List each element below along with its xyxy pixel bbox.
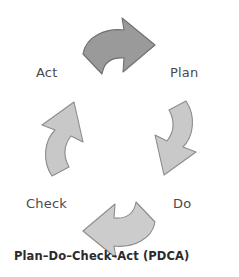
stage-label-plan: Plan	[170, 65, 198, 80]
diagram-caption: Plan–Do–Check–Act (PDCA)	[14, 249, 189, 263]
arrow-left-check-to-act	[42, 102, 83, 176]
arrow-right-plan-to-do	[155, 101, 196, 175]
stage-label-do: Do	[173, 196, 191, 211]
pdca-cycle-arrows	[0, 0, 239, 277]
arrow-top-act-to-plan	[83, 18, 155, 74]
stage-label-check: Check	[26, 196, 67, 211]
pdca-cycle-diagram: Act Plan Check Do Plan–Do–Check–Act (PDC…	[0, 0, 239, 277]
stage-label-act: Act	[36, 65, 58, 80]
